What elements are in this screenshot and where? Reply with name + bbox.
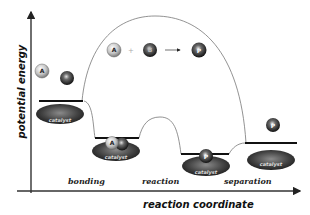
catalyst-separation: catalyst: [247, 150, 295, 170]
svg-text:B: B: [148, 46, 153, 53]
uncatalyzed-energy-curve: [82, 16, 246, 143]
catalysis-energy-diagram: catalyst catalyst catalyst catalyst A A …: [0, 0, 310, 215]
svg-text:catalyst: catalyst: [260, 161, 283, 168]
svg-text:catalyst: catalyst: [105, 154, 128, 161]
stage-label-reaction: reaction: [142, 176, 179, 186]
stage-label-bonding: bonding: [68, 176, 105, 186]
catalyst-initial: catalyst: [36, 104, 84, 124]
x-axis-label: reaction coordinate: [143, 199, 254, 210]
svg-text:+: +: [128, 47, 134, 55]
stage-label-separation: separation: [224, 176, 272, 186]
svg-text:P: P: [271, 122, 276, 129]
molecule-a-initial: A: [35, 64, 49, 78]
svg-text:catalyst: catalyst: [195, 169, 218, 176]
reaction-equation: A + B P: [107, 43, 207, 58]
y-axis-label: potential energy: [16, 49, 27, 139]
svg-text:A: A: [112, 46, 117, 53]
molecule-p-reaction: P: [199, 149, 213, 163]
molecule-p-separated: P: [266, 118, 280, 132]
svg-text:catalyst: catalyst: [49, 117, 72, 124]
svg-text:P: P: [197, 47, 202, 54]
svg-text:A: A: [40, 67, 45, 74]
svg-text:P: P: [204, 153, 209, 160]
svg-text:A: A: [110, 139, 115, 146]
molecule-b-initial: [60, 71, 74, 85]
